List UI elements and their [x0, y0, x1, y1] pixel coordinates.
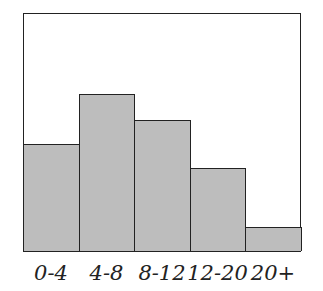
bar-0-4 — [23, 144, 80, 251]
plot-frame — [23, 13, 301, 252]
bar-4-8 — [79, 94, 135, 251]
bar-12-20 — [190, 168, 246, 251]
bar-20+ — [245, 227, 302, 251]
x-tick-label: 20+ — [233, 261, 313, 285]
bar-8-12 — [134, 120, 191, 251]
